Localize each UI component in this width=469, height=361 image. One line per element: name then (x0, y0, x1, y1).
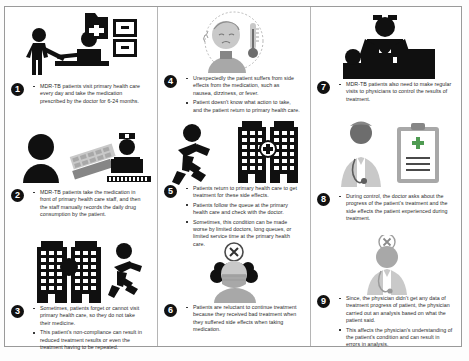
step-5-artwork (164, 117, 304, 185)
step-1-text: MDR-TB patients visit primary health car… (11, 83, 151, 105)
column-left: 1 MDR-TB patients visit primary health c… (5, 7, 157, 346)
step-8-bullet: During control, the doctor asks about th… (339, 193, 453, 223)
step-9-artwork (317, 235, 457, 295)
step-3-bullet-list: Sometimes, patients forget or cannot vis… (33, 305, 147, 351)
step-8-artwork (317, 117, 457, 193)
step-3-bullet: This patient's non-compliance can result… (33, 329, 147, 351)
step-6-text: Patients are reluctant to continue treat… (164, 304, 304, 334)
step-5-bullet-list: Patients return to primary health care t… (186, 185, 300, 248)
step-4-text: Unexpectedly the patient suffers from si… (164, 75, 304, 114)
doctor-examining-patient-icon (317, 9, 457, 81)
step-5: 5 Patients return to primary health care… (158, 115, 310, 240)
step-8-bullet-list: During control, the doctor asks about th… (339, 193, 453, 223)
step-2-artwork (11, 127, 151, 189)
step-6-bullet: Patients are reluctant to continue treat… (186, 304, 300, 334)
step-7-text: MDR-TB patients also need to make regula… (317, 81, 457, 103)
step-1-artwork (11, 9, 151, 83)
step-4-bullet: Patient doesn't know what action to take… (186, 99, 300, 114)
step-9-bullet: This affects the physician's understandi… (339, 327, 453, 349)
buildings-running-person-icon (11, 237, 151, 305)
physician-no-data-icon (317, 235, 457, 295)
step-4-bullet: Unexpectedly the patient suffers from si… (186, 75, 300, 97)
step-2-bullet: MDR-TB patients take the medication in f… (33, 189, 147, 219)
running-person-clinic-buildings-icon (164, 117, 304, 185)
step-9-text: Since, the physician didn't get any data… (317, 295, 457, 349)
step-3-text: Sometimes, patients forget or cannot vis… (11, 305, 151, 351)
step-2-text: MDR-TB patients take the medication in f… (11, 189, 151, 219)
step-7-artwork (317, 9, 457, 81)
doctor-clipboard-icon (317, 117, 457, 193)
column-right: 7 MDR-TB patients also need to make regu… (311, 7, 463, 346)
step-5-bullet: Patients follow the queue at the primary… (186, 202, 300, 217)
step-5-bullet: Patients return to primary health care t… (186, 185, 300, 200)
step-4: 4 Unexpectedly the patient suffers from … (158, 7, 310, 115)
step-8: 8 During control, the doctor asks about … (311, 115, 463, 233)
sick-person-thermometer-icon (164, 9, 304, 75)
step-9-bullet: Since, the physician didn't get any data… (339, 295, 453, 325)
step-8-text: During control, the doctor asks about th… (317, 193, 457, 223)
step-7: 7 MDR-TB patients also need to make regu… (311, 7, 463, 115)
step-6-artwork (164, 242, 304, 304)
infographic-page: 1 MDR-TB patients visit primary health c… (0, 0, 469, 361)
step-5-text: Patients return to primary health care t… (164, 185, 304, 248)
step-3-artwork (11, 237, 151, 305)
step-7-bullet-list: MDR-TB patients also need to make regula… (339, 81, 453, 103)
diagram-frame: 1 MDR-TB patients visit primary health c… (4, 6, 462, 347)
step-4-bullet-list: Unexpectedly the patient suffers from si… (186, 75, 300, 114)
step-4-artwork (164, 9, 304, 75)
patient-pills-nurse-icon (11, 127, 151, 189)
step-6: 6 Patients are reluctant to continue tre… (158, 240, 310, 345)
pharmacy-counter-icon (11, 9, 151, 83)
step-1-bullet-list: MDR-TB patients visit primary health car… (33, 83, 147, 105)
step-1-bullet: MDR-TB patients visit primary health car… (33, 83, 147, 105)
step-2: 2 MDR-TB patients take the medication in… (5, 125, 157, 235)
step-1: 1 MDR-TB patients visit primary health c… (5, 7, 157, 125)
step-7-bullet: MDR-TB patients also need to make regula… (339, 81, 453, 103)
step-2-bullet-list: MDR-TB patients take the medication in f… (33, 189, 147, 219)
step-3-bullet: Sometimes, patients forget or cannot vis… (33, 305, 147, 327)
step-3: 3 Sometimes, patients forget or cannot v… (5, 235, 157, 347)
step-6-bullet-list: Patients are reluctant to continue treat… (186, 304, 300, 334)
masked-patient-refusal-icon (164, 242, 304, 304)
column-middle: 4 Unexpectedly the patient suffers from … (157, 7, 311, 346)
step-9-bullet-list: Since, the physician didn't get any data… (339, 295, 453, 349)
step-9: 9 Since, the physician didn't get any da… (311, 233, 463, 345)
